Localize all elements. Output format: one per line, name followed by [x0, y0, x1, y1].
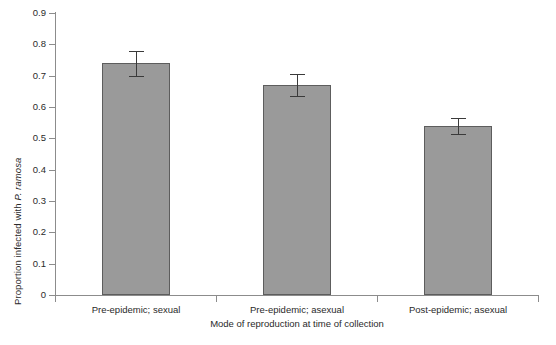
y-axis-tick [49, 232, 55, 233]
y-axis-line [55, 12, 56, 296]
y-axis-tick-label: 0.6 [2, 102, 46, 112]
x-axis-category-label: Pre-epidemic; asexual [217, 304, 377, 316]
x-axis-category-label: Post-epidemic; asexual [378, 304, 538, 316]
y-axis-tick-label-wrap: 0.6 [0, 107, 46, 117]
y-axis-tick-label-wrap: 0.9 [0, 13, 46, 23]
y-axis-tick [49, 264, 55, 265]
y-axis-tick-label: 0 [2, 290, 46, 300]
y-axis-tick-label: 0.8 [2, 39, 46, 49]
y-axis-tick [49, 13, 55, 14]
x-axis-tick [377, 296, 378, 302]
y-axis-tick-label-wrap: 0.5 [0, 138, 46, 148]
y-axis-tick [49, 201, 55, 202]
y-axis-tick-label-wrap: 0.3 [0, 201, 46, 211]
error-bar-cap-lower [129, 76, 144, 77]
y-axis-tick-label-wrap: 0.2 [0, 232, 46, 242]
y-axis-tick-label-wrap: 0.1 [0, 264, 46, 274]
y-axis-tick-label: 0.1 [2, 259, 46, 269]
x-axis-category-label: Pre-epidemic; sexual [56, 304, 216, 316]
error-bar-cap-lower [451, 134, 466, 135]
y-axis-tick-label-wrap: 0.4 [0, 170, 46, 180]
x-axis-tick [55, 296, 56, 302]
y-axis-tick-label-wrap: 0 [0, 295, 46, 305]
y-axis-tick [49, 107, 55, 108]
bar [424, 126, 492, 295]
error-bar-stem [458, 118, 459, 134]
y-axis-tick [49, 170, 55, 171]
x-axis-line [55, 295, 539, 296]
y-axis-tick [49, 44, 55, 45]
y-axis-tick-label: 0.7 [2, 71, 46, 81]
y-axis-tick-label: 0.4 [2, 165, 46, 175]
y-axis-tick [49, 138, 55, 139]
error-bar-cap-upper [290, 74, 305, 75]
error-bar-cap-upper [451, 118, 466, 119]
y-axis-tick-label: 0.9 [2, 8, 46, 18]
y-axis-tick [49, 76, 55, 77]
error-bar-stem [136, 51, 137, 76]
x-axis-tick [538, 296, 539, 302]
bar-chart-figure: Proportion infected with P. ramosa 00.10… [0, 0, 556, 345]
y-axis-tick-label-wrap: 0.8 [0, 44, 46, 54]
x-axis-title: Mode of reproduction at time of collecti… [55, 318, 539, 330]
y-axis-tick-label-wrap: 0.7 [0, 76, 46, 86]
y-axis-tick-label: 0.5 [2, 133, 46, 143]
error-bar-stem [297, 74, 298, 96]
error-bar-cap-lower [290, 96, 305, 97]
bar [263, 85, 331, 295]
y-axis-tick-label: 0.2 [2, 227, 46, 237]
error-bar-cap-upper [129, 51, 144, 52]
x-axis-tick [216, 296, 217, 302]
bar [102, 63, 170, 295]
y-axis-tick-label: 0.3 [2, 196, 46, 206]
